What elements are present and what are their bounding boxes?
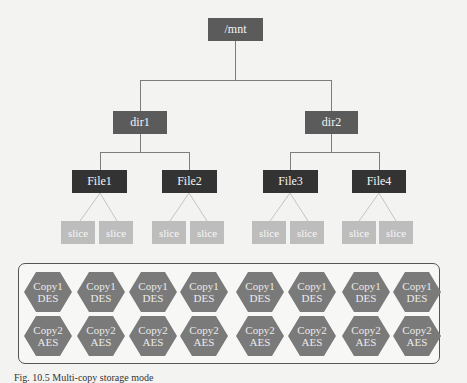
slice-label: slice bbox=[349, 227, 369, 239]
slice-label: slice bbox=[197, 227, 217, 239]
dir-label: dir1 bbox=[130, 115, 149, 130]
cipher-label: DES bbox=[250, 292, 271, 304]
file-node-file3: File3 bbox=[263, 170, 318, 193]
file-label: File3 bbox=[278, 174, 303, 189]
copy-label: Copy2 bbox=[351, 324, 380, 336]
slice-node: slice bbox=[190, 221, 224, 244]
cipher-label: AES bbox=[356, 336, 377, 348]
slice-node: slice bbox=[61, 221, 95, 244]
cipher-label: AES bbox=[38, 336, 59, 348]
cipher-label: DES bbox=[407, 292, 428, 304]
cipher-label: AES bbox=[194, 336, 215, 348]
slice-node: slice bbox=[152, 221, 186, 244]
copy-label: Copy2 bbox=[297, 324, 326, 336]
copy-label: Copy1 bbox=[245, 280, 274, 292]
root-node-mnt: /mnt bbox=[208, 18, 263, 41]
file-node-file1: File1 bbox=[72, 170, 127, 193]
copy-label: Copy1 bbox=[351, 280, 380, 292]
cipher-label: AES bbox=[250, 336, 271, 348]
slice-label: slice bbox=[106, 227, 126, 239]
cipher-label: DES bbox=[143, 292, 164, 304]
cipher-label: AES bbox=[91, 336, 112, 348]
copy-label: Copy1 bbox=[189, 280, 218, 292]
cipher-label: AES bbox=[407, 336, 428, 348]
dir-label: dir2 bbox=[322, 115, 341, 130]
copy-label: Copy2 bbox=[245, 324, 274, 336]
slice-label: slice bbox=[386, 227, 406, 239]
copy-label: Copy2 bbox=[402, 324, 431, 336]
copy-label: Copy2 bbox=[33, 324, 62, 336]
file-label: File1 bbox=[87, 174, 112, 189]
slice-node: slice bbox=[252, 221, 286, 244]
dir-node-dir2: dir2 bbox=[305, 111, 358, 134]
copy-label: Copy1 bbox=[33, 280, 62, 292]
cipher-label: AES bbox=[302, 336, 323, 348]
slice-node: slice bbox=[342, 221, 376, 244]
slice-label: slice bbox=[297, 227, 317, 239]
slice-label: slice bbox=[68, 227, 88, 239]
slice-node: slice bbox=[290, 221, 324, 244]
cipher-label: DES bbox=[38, 292, 59, 304]
slice-label: slice bbox=[159, 227, 179, 239]
slice-node: slice bbox=[99, 221, 133, 244]
slice-node: slice bbox=[379, 221, 413, 244]
cipher-label: DES bbox=[356, 292, 377, 304]
file-node-file2: File2 bbox=[162, 170, 217, 193]
slice-label: slice bbox=[259, 227, 279, 239]
copy-label: Copy1 bbox=[297, 280, 326, 292]
copy-label: Copy2 bbox=[189, 324, 218, 336]
figure-caption: Fig. 10.5 Multi-copy storage mode bbox=[14, 372, 153, 383]
cipher-label: DES bbox=[194, 292, 215, 304]
copy-label: Copy2 bbox=[86, 324, 115, 336]
file-label: File2 bbox=[177, 174, 202, 189]
root-label: /mnt bbox=[224, 22, 246, 37]
copy-label: Copy1 bbox=[86, 280, 115, 292]
copy-label: Copy1 bbox=[402, 280, 431, 292]
cipher-label: DES bbox=[302, 292, 323, 304]
copy-label: Copy1 bbox=[138, 280, 167, 292]
file-node-file4: File4 bbox=[352, 170, 406, 193]
dir-node-dir1: dir1 bbox=[113, 111, 167, 134]
file-label: File4 bbox=[367, 174, 392, 189]
cipher-label: AES bbox=[143, 336, 164, 348]
cipher-label: DES bbox=[91, 292, 112, 304]
copy-label: Copy2 bbox=[138, 324, 167, 336]
